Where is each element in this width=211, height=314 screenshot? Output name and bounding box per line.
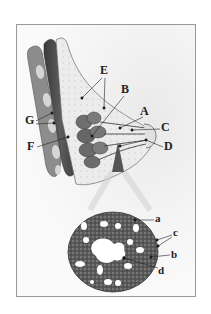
label-B: B: [121, 83, 129, 95]
label-F: F: [27, 140, 34, 152]
nipple: [144, 124, 156, 148]
label-a: a: [155, 213, 161, 224]
breast-anatomy-illustration: [0, 0, 211, 314]
label-b: b: [171, 249, 177, 260]
label-D: D: [164, 140, 173, 152]
label-c: c: [173, 227, 178, 238]
label-E: E: [100, 64, 108, 76]
label-A: A: [140, 105, 149, 117]
label-C: C: [161, 121, 170, 133]
label-d: d: [158, 265, 164, 276]
lobule-cross-section: [68, 212, 158, 292]
label-G: G: [25, 114, 34, 126]
